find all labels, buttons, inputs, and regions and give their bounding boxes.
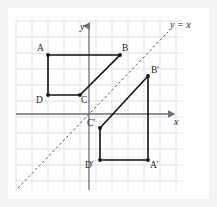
vertex-label-d-prime: D'	[85, 160, 94, 170]
vertex-label-b: B	[122, 43, 128, 53]
vertex-dot-c-prime	[98, 126, 102, 130]
vertex-dot-d	[46, 93, 50, 97]
vertex-label-b-prime: B'	[151, 65, 159, 75]
vertex-dots	[46, 53, 150, 162]
vertex-dot-a	[46, 53, 50, 57]
coordinate-plane-svg: x y y = x ABCDB'A'C'D'	[8, 8, 209, 199]
quadrilateral-abcd	[48, 55, 120, 95]
vertex-label-c-prime: C'	[87, 118, 95, 128]
vertex-dot-d-prime	[98, 158, 102, 162]
quadrilateral-a-prime-b-prime-c-prime-d-prime	[100, 76, 148, 160]
vertex-dot-b	[118, 53, 122, 57]
y-axis-label: y	[79, 21, 85, 32]
figure-root: x y y = x ABCDB'A'C'D'	[0, 0, 217, 207]
vertex-label-d: D	[36, 95, 43, 105]
vertex-label-a: A	[37, 43, 44, 53]
vertex-label-c: C	[81, 95, 87, 105]
vertex-labels: ABCDB'A'C'D'	[36, 43, 159, 170]
mirror-line-label: y = x	[169, 19, 191, 30]
vertex-label-a-prime: A'	[150, 160, 159, 170]
vertex-dot-b-prime	[146, 74, 150, 78]
plot-card: x y y = x ABCDB'A'C'D'	[8, 8, 209, 199]
x-axis-label: x	[173, 116, 179, 127]
